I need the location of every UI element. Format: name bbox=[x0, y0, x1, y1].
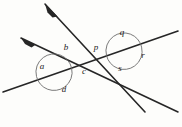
lower-parallel-arrowhead-icon bbox=[21, 38, 36, 48]
upper-parallel-line bbox=[45, 4, 145, 112]
angle-label-r: r bbox=[141, 51, 145, 60]
angle-label-q: q bbox=[120, 28, 125, 37]
figure-canvas bbox=[0, 0, 182, 127]
angle-label-p: p bbox=[94, 43, 99, 52]
lower-parallel-line bbox=[21, 38, 178, 112]
angle-label-a: a bbox=[40, 62, 45, 71]
angle-label-d: d bbox=[62, 85, 67, 94]
angle-label-b: b bbox=[64, 43, 69, 52]
angle-label-c: c bbox=[82, 67, 86, 76]
upper-parallel-arrowhead-icon bbox=[45, 4, 58, 18]
right-intersection-arcs bbox=[106, 33, 142, 69]
geometry-figure: a b c d p q r s bbox=[0, 0, 182, 127]
transversal-line bbox=[3, 31, 178, 92]
angle-label-s: s bbox=[118, 64, 122, 73]
